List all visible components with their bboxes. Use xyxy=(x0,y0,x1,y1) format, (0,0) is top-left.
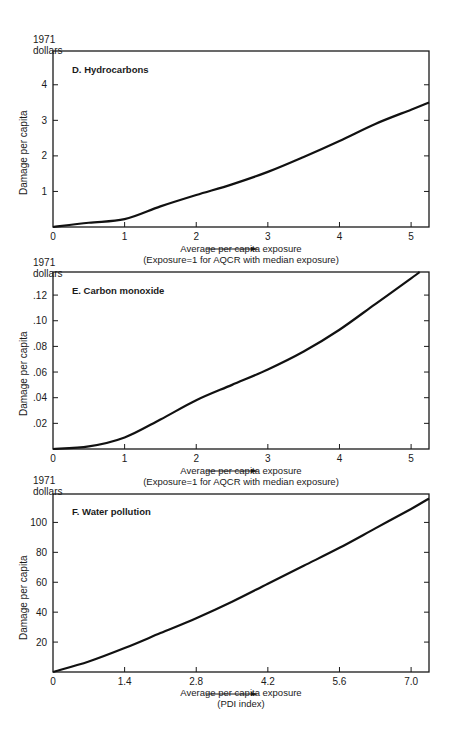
x-axis-title: Average per capita exposure xyxy=(53,687,429,698)
data-line xyxy=(53,498,429,672)
chart-title: F. Water pollution xyxy=(72,506,151,517)
x-tick-label: 4.2 xyxy=(261,676,275,687)
y-tick-label: 80 xyxy=(36,547,48,558)
chart-panel-water-pollution: 1971 dollars 01.42.84.25.67.020406080100… xyxy=(0,0,452,740)
x-tick-label: 0 xyxy=(50,676,56,687)
y-tick-label: 100 xyxy=(30,517,47,528)
x-tick-label: 5.6 xyxy=(333,676,347,687)
x-tick-label: 7.0 xyxy=(404,676,418,687)
x-tick-label: 2.8 xyxy=(189,676,203,687)
y-tick-label: 40 xyxy=(36,607,48,618)
plot-frame xyxy=(53,494,429,672)
chart-plot-f: 01.42.84.25.67.020406080100 xyxy=(0,0,452,740)
y-tick-label: 60 xyxy=(36,577,48,588)
x-axis-note: (PDI index) xyxy=(53,698,429,709)
y-tick-label: 20 xyxy=(36,637,48,648)
x-axis-label: Average per capita exposure (PDI index) xyxy=(53,687,429,709)
x-tick-label: 1.4 xyxy=(118,676,132,687)
y-axis-label: Damage per capita xyxy=(18,556,29,641)
